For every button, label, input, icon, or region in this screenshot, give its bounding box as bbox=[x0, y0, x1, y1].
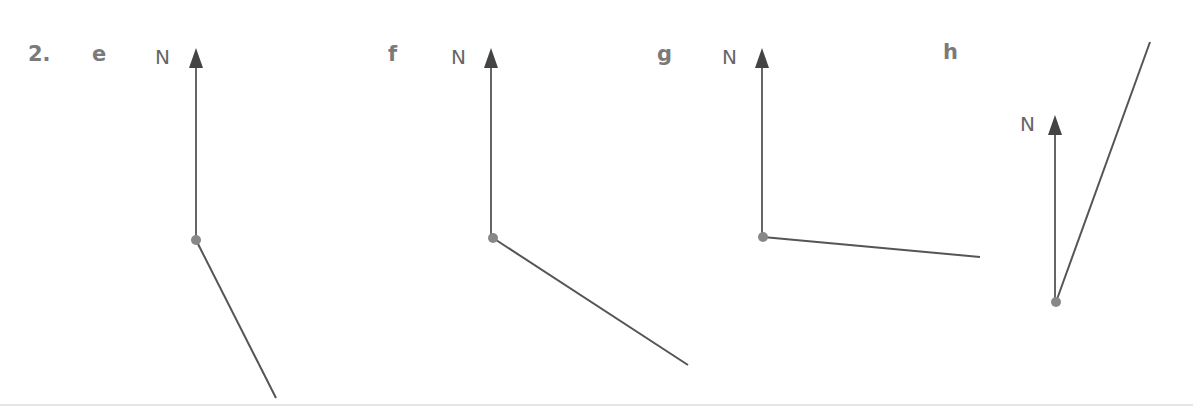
diagram-g bbox=[755, 48, 980, 257]
bearing-diagrams bbox=[0, 0, 1193, 407]
north-arrow-icon bbox=[1048, 115, 1062, 135]
page-edge-divider bbox=[0, 404, 1193, 406]
bearing-line-h bbox=[1056, 42, 1150, 302]
north-arrow-icon bbox=[189, 48, 203, 68]
bearing-line-e bbox=[196, 240, 276, 398]
diagram-f bbox=[484, 48, 688, 365]
diagram-h bbox=[1048, 42, 1150, 307]
point-h bbox=[1051, 297, 1061, 307]
bearing-line-f bbox=[493, 238, 688, 365]
bearing-line-g bbox=[763, 237, 980, 257]
point-g bbox=[758, 232, 768, 242]
north-arrow-icon bbox=[484, 48, 498, 68]
north-arrow-icon bbox=[755, 48, 769, 68]
point-f bbox=[488, 233, 498, 243]
point-e bbox=[191, 235, 201, 245]
diagram-e bbox=[189, 48, 276, 398]
